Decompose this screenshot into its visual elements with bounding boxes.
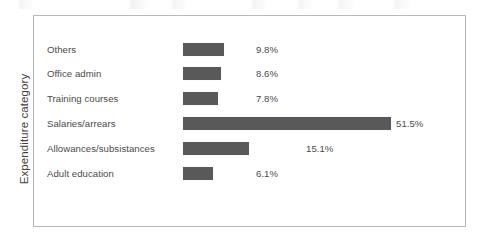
category-label: Allowances/subsistances (47, 141, 155, 157)
bar (183, 92, 218, 105)
bar-row: Salaries/arrears51.5% (34, 116, 465, 132)
category-label: Salaries/arrears (47, 116, 116, 132)
value-label: 9.8% (256, 42, 278, 58)
value-label: 8.6% (256, 66, 278, 82)
bar (183, 117, 391, 130)
scan-artifact-strip (0, 0, 481, 9)
value-label: 15.1% (306, 141, 333, 157)
bar-rows-container: Others9.8%Office admin8.6%Training cours… (34, 16, 465, 226)
bar (183, 43, 224, 56)
category-label: Others (47, 42, 76, 58)
value-label: 6.1% (256, 166, 278, 182)
chart-plot-area: Others9.8%Office admin8.6%Training cours… (33, 15, 466, 227)
y-axis-title: Expenditure category (16, 23, 32, 235)
bar-row: Others9.8% (34, 42, 465, 58)
bar-row: Allowances/subsistances15.1% (34, 141, 465, 157)
bar (183, 142, 249, 155)
bar-row: Training courses7.8% (34, 91, 465, 107)
value-label: 7.8% (256, 91, 278, 107)
bar-row: Office admin8.6% (34, 66, 465, 82)
category-label: Office admin (47, 66, 101, 82)
bar-row: Adult education6.1% (34, 166, 465, 182)
bar (183, 67, 221, 80)
value-label: 51.5% (396, 116, 423, 132)
category-label: Adult education (47, 166, 114, 182)
bar (183, 167, 213, 180)
category-label: Training courses (47, 91, 118, 107)
